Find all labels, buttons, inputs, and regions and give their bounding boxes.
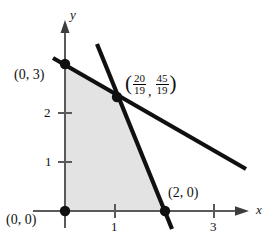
point-label-y-intercept: (0, 3) — [14, 68, 44, 82]
fraction-x-denominator: 19 — [133, 84, 146, 96]
plot-canvas — [0, 0, 272, 242]
fraction-x-coordinate: 20 19 — [133, 73, 146, 96]
coordinate-comma: , — [148, 85, 152, 99]
fraction-y-denominator: 19 — [156, 84, 169, 96]
point-label-origin: (0, 0) — [6, 213, 36, 227]
vertex-dot-intersection — [112, 92, 122, 102]
x-axis-label: x — [256, 203, 262, 216]
fraction-y-numerator: 45 — [156, 73, 169, 84]
vertex-dot-origin — [60, 206, 70, 216]
y-tick-label-2: 2 — [44, 106, 51, 119]
y-tick-label-1: 1 — [45, 155, 52, 168]
x-tick-label-3: 3 — [210, 220, 217, 233]
close-paren: ) — [170, 73, 177, 94]
y-axis-arrowhead — [61, 20, 70, 33]
vertex-dot-y-intercept — [60, 59, 70, 69]
open-paren: ( — [125, 73, 132, 94]
point-label-intersection: ( 20 19 , 45 19 ) — [125, 73, 177, 96]
fraction-x-numerator: 20 — [133, 73, 146, 84]
x-axis-arrowhead — [235, 206, 249, 215]
y-axis-label: y — [70, 8, 76, 21]
fraction-y-coordinate: 45 19 — [156, 73, 169, 96]
math-figure-feasible-region: y x 2 1 1 3 (0, 3) (0, 0) (2, 0) ( 20 19… — [0, 0, 272, 242]
vertex-dot-x-intercept — [160, 206, 170, 216]
x-tick-label-1: 1 — [111, 220, 118, 233]
point-label-x-intercept: (2, 0) — [168, 186, 198, 200]
